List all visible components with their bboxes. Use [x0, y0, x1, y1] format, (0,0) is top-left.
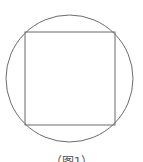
- geometry-figure: [0, 0, 143, 162]
- inscribed-square: [25, 32, 115, 125]
- figure-caption: （图1）: [0, 155, 143, 162]
